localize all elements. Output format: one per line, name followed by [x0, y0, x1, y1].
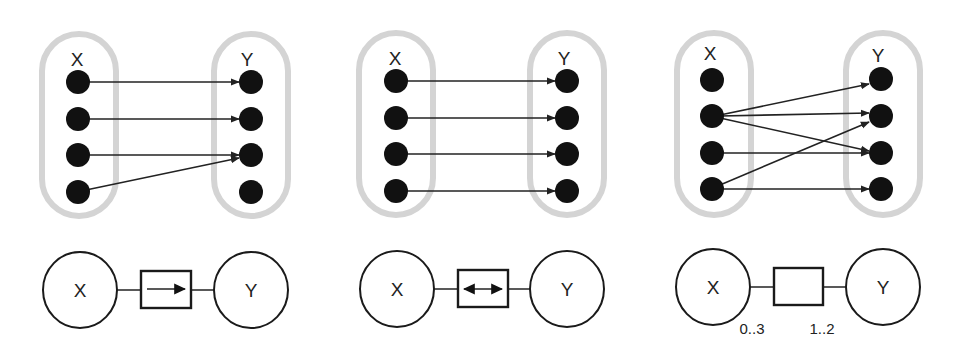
- x-element-dot: [700, 177, 724, 201]
- node-y-label: Y: [245, 280, 258, 301]
- y-element-dot: [239, 180, 263, 204]
- x-element-dot: [700, 141, 724, 165]
- y-element-dot: [869, 67, 893, 91]
- set-diagram-function: X Y: [42, 34, 288, 216]
- y-element-dot: [869, 104, 893, 128]
- set-x-label: X: [704, 43, 717, 64]
- factor-graph-relation: X Y 0..3 1..2: [676, 249, 920, 337]
- node-x-label: X: [707, 277, 720, 298]
- y-element-dot: [555, 142, 579, 166]
- node-x-label: X: [74, 280, 87, 301]
- y-element-dot: [239, 143, 263, 167]
- y-element-dot: [869, 177, 893, 201]
- set-y-label: Y: [241, 49, 254, 70]
- node-y-label: Y: [877, 277, 890, 298]
- multiplicity-x-label: 0..3: [739, 320, 764, 337]
- multiplicity-y-label: 1..2: [809, 320, 834, 337]
- x-element-dot: [700, 68, 724, 92]
- y-element-dot: [555, 179, 579, 203]
- y-element-dot: [239, 70, 263, 94]
- factor-graph-bijection: X Y: [360, 251, 604, 327]
- y-element-dot: [869, 141, 893, 165]
- y-element-dot: [555, 106, 579, 130]
- set-y-label: Y: [558, 48, 571, 69]
- panel-function: X Y X Y: [42, 34, 288, 328]
- set-diagram-relation: X Y: [677, 33, 920, 215]
- panel-bijection: X Y X Y: [359, 33, 604, 327]
- set-x-label: X: [71, 49, 84, 70]
- panel-relation: X Y X Y 0..3 1..2: [676, 33, 920, 337]
- factor-graph-function: X Y: [43, 252, 288, 328]
- x-element-dot: [66, 143, 90, 167]
- x-element-dot: [384, 69, 408, 93]
- x-element-dot: [66, 70, 90, 94]
- x-element-dot: [66, 107, 90, 131]
- x-element-dot: [384, 142, 408, 166]
- y-element-dot: [555, 69, 579, 93]
- set-x-label: X: [389, 48, 402, 69]
- set-y-label: Y: [872, 45, 885, 66]
- y-element-dot: [239, 107, 263, 131]
- relation-diagram-figure: X Y X Y: [0, 0, 965, 355]
- set-diagram-bijection: X Y: [359, 33, 604, 215]
- x-element-dot: [384, 106, 408, 130]
- x-element-dot: [700, 104, 724, 128]
- node-y-label: Y: [561, 279, 574, 300]
- relation-box: [774, 268, 823, 305]
- node-x-label: X: [391, 279, 404, 300]
- x-element-dot: [384, 179, 408, 203]
- x-element-dot: [66, 180, 90, 204]
